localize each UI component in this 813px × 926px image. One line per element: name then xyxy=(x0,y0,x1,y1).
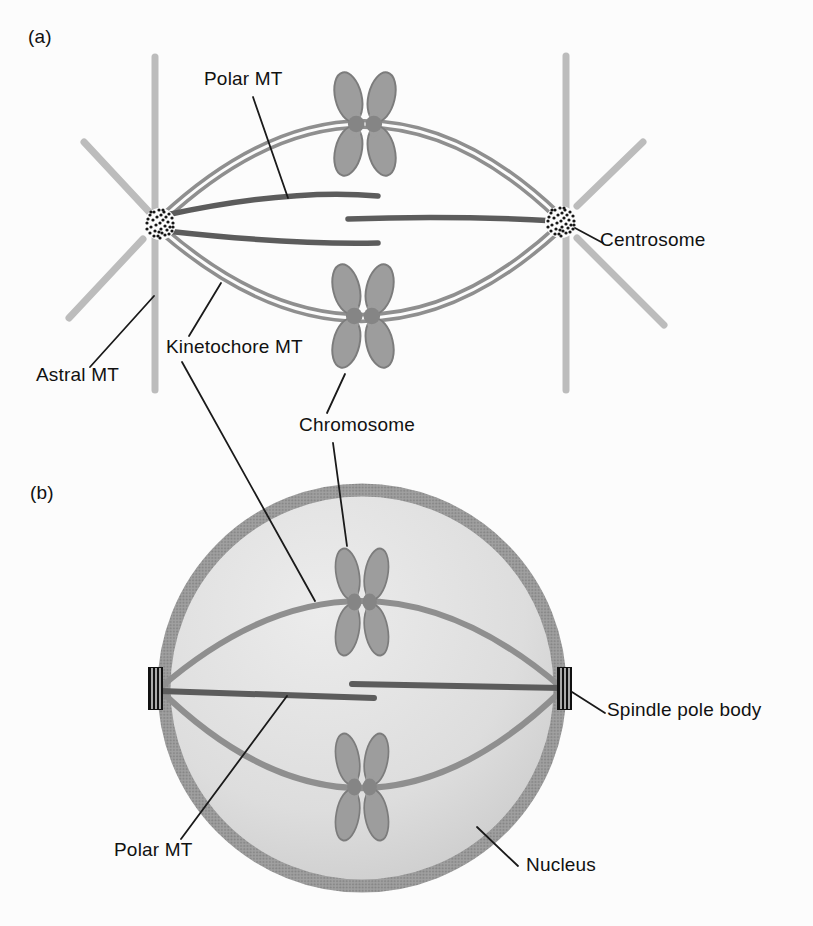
centrosome-right xyxy=(545,206,577,238)
panel-a-graphic xyxy=(69,56,664,390)
polar-mt-b-label: Polar MT xyxy=(114,840,193,860)
mitotic-spindle-figure: (a) Polar MT Centrosome Astral MT Kineto… xyxy=(0,0,813,926)
panel-b-tag: (b) xyxy=(30,483,54,503)
astral-mt-leader xyxy=(90,296,154,367)
spindle-diagram-svg xyxy=(0,0,813,926)
polar-mt-b-right xyxy=(352,684,562,688)
astral-mt-label: Astral MT xyxy=(36,365,119,385)
kinetochore-mt-leader-a xyxy=(189,283,221,336)
spindle-pole-body-right xyxy=(557,667,572,710)
polar-microtubules-a xyxy=(166,194,556,243)
panel-a-tag: (a) xyxy=(28,27,52,47)
centrosome-label: Centrosome xyxy=(600,230,706,250)
kinetochore-mt-label: Kinetochore MT xyxy=(166,337,303,357)
spindle-pole-body-leader xyxy=(572,692,605,713)
chromosome-leader-a xyxy=(327,374,345,413)
centrosome-left xyxy=(144,208,176,240)
polar-mt-a-label: Polar MT xyxy=(204,69,283,89)
spindle-pole-body-left xyxy=(148,667,163,710)
spindle-pole-body-label: Spindle pole body xyxy=(607,700,761,720)
nucleus-label: Nucleus xyxy=(526,855,596,875)
chromosome-label: Chromosome xyxy=(299,415,415,435)
panel-b-graphic xyxy=(148,490,572,886)
